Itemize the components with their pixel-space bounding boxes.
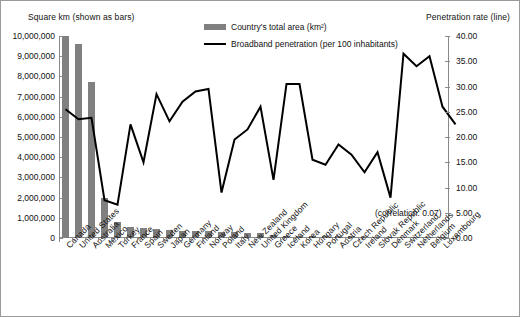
right-axis-tick-labels: 40.0035.0030.0025.0020.0015.0010.005.000… [456,36,516,238]
right-axis-tick-mark [445,112,450,113]
left-axis-tick-label: 7,000,000 [17,92,55,102]
x-axis-tick-mark [137,238,138,242]
left-axis-title: Square km (shown as bars) [28,12,134,22]
x-axis-tick-mark [306,238,307,242]
legend-label-bars: Country's total area (km²) [231,22,327,32]
right-axis-tick-mark [445,162,450,163]
left-axis-tick-label: 3,000,000 [17,172,55,182]
right-axis-tick-label: 15.00 [456,157,477,167]
right-axis-tick-label: 40.00 [456,31,477,41]
left-axis-tick-mark [59,36,63,37]
right-axis-tick-mark [445,137,450,138]
right-axis-tick-mark [445,36,450,37]
x-axis-tick-mark [345,238,346,242]
x-axis-tick-mark [85,238,86,242]
right-axis-tick-mark [445,188,450,189]
right-axis-tick-label: 25.00 [456,107,477,117]
penetration-line-path [66,54,456,205]
left-axis-tick-mark [59,157,63,158]
right-axis-tick-label: 20.00 [456,132,477,142]
x-axis-tick-mark [397,238,398,242]
left-axis-tick-mark [59,76,63,77]
left-axis-tick-mark [59,218,63,219]
correlation-annotation: (correlation: 0.07) [375,208,442,218]
x-axis-tick-mark [176,238,177,242]
x-axis-tick-mark [111,238,112,242]
left-axis-tick-mark [59,56,63,57]
left-axis-tick-label: 6,000,000 [17,112,55,122]
x-axis-tick-mark [449,238,450,242]
x-axis-tick-mark [124,238,125,242]
x-axis-tick-mark [202,238,203,242]
x-axis-tick-mark [436,238,437,242]
x-axis-tick-mark [423,238,424,242]
x-axis-tick-mark [410,238,411,242]
bar-swatch-icon [204,24,226,30]
left-axis-tick-mark [59,97,63,98]
left-axis-tick-label: 0 [50,233,55,243]
left-axis-tick-mark [59,117,63,118]
left-axis-tick-label: 5,000,000 [17,132,55,142]
right-axis-tick-mark [445,87,450,88]
legend-item-bars: Country's total area (km²) [204,20,419,34]
left-axis-tick-label: 10,000,000 [12,31,55,41]
right-axis-tick-mark [445,61,450,62]
x-axis-tick-mark [358,238,359,242]
right-axis-tick-mark [445,213,450,214]
x-axis-tick-mark [163,238,164,242]
x-axis-tick-mark [215,238,216,242]
x-axis-tick-mark [59,238,60,242]
x-axis-tick-mark [267,238,268,242]
x-axis-tick-mark [72,238,73,242]
left-axis-tick-label: 8,000,000 [17,71,55,81]
left-axis-tick-labels: 10,000,0009,000,0008,000,0007,000,0006,0… [1,36,55,238]
x-axis-tick-mark [384,238,385,242]
left-axis-tick-mark [59,137,63,138]
left-axis-tick-mark [59,177,63,178]
right-axis-tick-label: 30.00 [456,82,477,92]
x-axis-tick-mark [254,238,255,242]
left-axis-tick-label: 4,000,000 [17,152,55,162]
x-axis-tick-mark [241,238,242,242]
right-axis-tick-label: 35.00 [456,56,477,66]
x-axis-tick-mark [150,238,151,242]
x-axis-tick-mark [98,238,99,242]
left-axis-tick-label: 9,000,000 [17,51,55,61]
broadband-area-chart: Square km (shown as bars) Penetration ra… [0,0,520,317]
left-axis-tick-label: 2,000,000 [17,193,55,203]
right-axis-tick-label: 5.00 [456,208,473,218]
x-axis-tick-mark [371,238,372,242]
x-axis-tick-mark [332,238,333,242]
x-axis-tick-mark [228,238,229,242]
right-axis-tick-label: 10.00 [456,183,477,193]
x-axis-tick-mark [293,238,294,242]
x-axis-tick-mark [189,238,190,242]
right-axis-title: Penetration rate (line) [426,12,510,22]
x-axis-tick-mark [280,238,281,242]
x-axis-tick-mark [319,238,320,242]
left-axis-tick-label: 1,000,000 [17,213,55,223]
left-axis-tick-mark [59,198,63,199]
right-axis-tick-label: 0.00 [456,233,473,243]
